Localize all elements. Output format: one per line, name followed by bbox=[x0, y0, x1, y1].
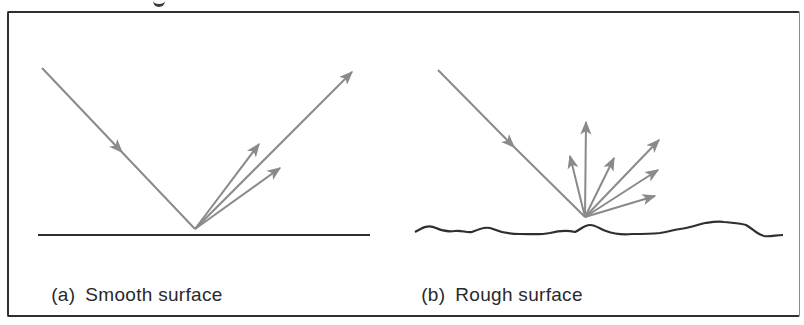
rough-surface-line bbox=[415, 222, 783, 237]
incident-ray-icon bbox=[42, 68, 195, 229]
scattered-ray-icon bbox=[570, 156, 585, 217]
caption-text-b: Rough surface bbox=[455, 284, 582, 305]
diffuse-reflected-ray-icon bbox=[195, 168, 280, 229]
panel-rough-surface bbox=[415, 70, 783, 236]
panel-smooth-surface bbox=[38, 68, 370, 235]
diffuse-reflected-ray-icon bbox=[195, 144, 259, 229]
scattered-ray-icon bbox=[585, 122, 586, 217]
panel-label-b: (b) bbox=[421, 284, 445, 305]
panel-label-a: (a) bbox=[51, 284, 75, 305]
caption-smooth-surface: (a)Smooth surface bbox=[40, 262, 223, 306]
caption-text-a: Smooth surface bbox=[85, 284, 222, 305]
incident-ray-icon bbox=[438, 70, 585, 217]
specular-reflected-ray-icon bbox=[195, 72, 352, 229]
caption-rough-surface: (b)Rough surface bbox=[410, 262, 583, 306]
